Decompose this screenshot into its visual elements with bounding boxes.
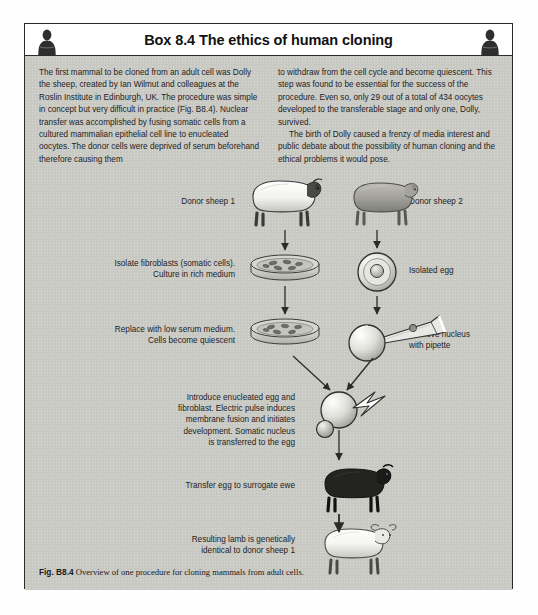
figure-caption: Fig. B8.4 Overview of one procedure for … [39,567,494,578]
person-silhouette-icon-right [480,29,500,55]
left-column: The first mammal to be cloned from an ad… [39,67,261,166]
page-title: Box 8.4 The ethics of human cloning [144,32,393,48]
figure-caption-label: Fig. B8.4 [39,567,74,577]
cloning-diagram: Donor sheep 1 Isolate fibroblasts (somat… [25,174,512,554]
box-body: The first mammal to be cloned from an ad… [25,56,512,590]
textbook-box: Box 8.4 The ethics of human cloning The … [24,23,513,589]
box-header: Box 8.4 The ethics of human cloning [25,24,512,56]
right-column-paragraph-1: to withdraw from the cell cycle and beco… [278,67,500,129]
page-root: Box 8.4 The ethics of human cloning The … [0,0,538,615]
diagram-arrows [25,174,512,554]
right-column: to withdraw from the cell cycle and beco… [278,67,500,166]
figure-caption-text: Overview of one procedure for cloning ma… [76,567,304,577]
person-silhouette-icon-left [37,29,57,55]
right-column-paragraph-2: The birth of Dolly caused a frenzy of me… [278,129,500,166]
left-column-paragraph-1: The first mammal to be cloned from an ad… [39,67,261,166]
text-columns: The first mammal to be cloned from an ad… [39,67,501,166]
